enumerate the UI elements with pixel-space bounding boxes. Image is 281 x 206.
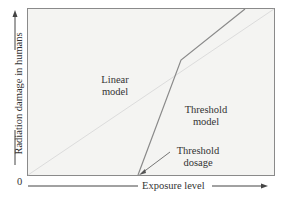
linear-model-line bbox=[28, 9, 274, 175]
threshold-dosage-label: Threshold dosage bbox=[168, 145, 228, 169]
linear-label-line1: Linear bbox=[90, 74, 140, 86]
threshold-dosage-arrow bbox=[142, 152, 170, 173]
x-axis-label: Exposure level bbox=[142, 180, 205, 191]
threshold-model-line1: Threshold bbox=[176, 104, 236, 116]
threshold-model-line2: model bbox=[176, 116, 236, 128]
threshold-dosage-line1: Threshold bbox=[168, 145, 228, 157]
threshold-dosage-line2: dosage bbox=[168, 157, 228, 169]
threshold-model-label: Threshold model bbox=[176, 104, 236, 128]
linear-model-label: Linear model bbox=[90, 74, 140, 98]
chart-lines bbox=[0, 0, 281, 206]
y-axis-label: Radiation damage in humans bbox=[13, 24, 24, 164]
linear-label-line2: model bbox=[90, 86, 140, 98]
origin-label: 0 bbox=[17, 176, 22, 187]
